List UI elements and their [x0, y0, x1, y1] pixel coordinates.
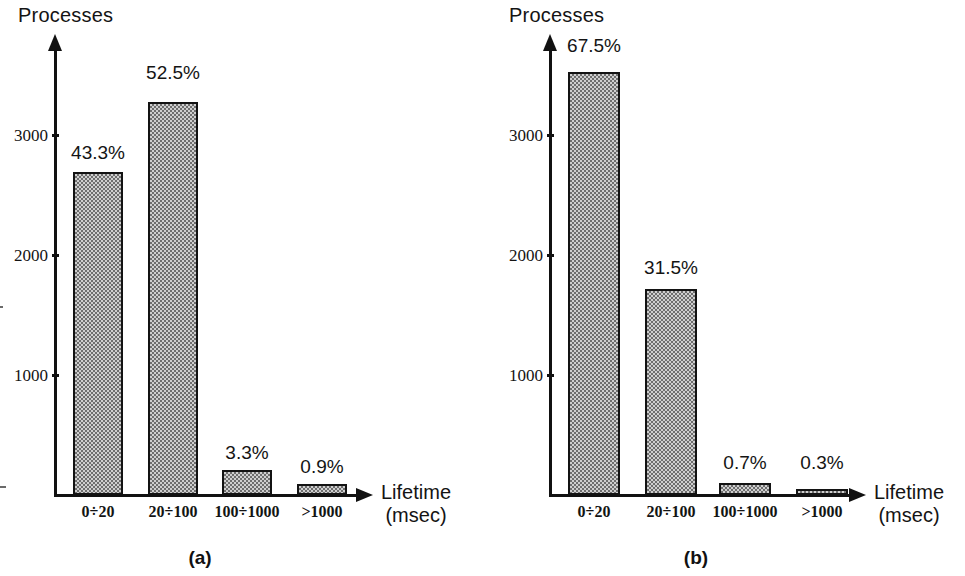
- x-category-label-100-1000: 100÷1000: [698, 503, 792, 520]
- x-axis-unit-text: (msec): [381, 504, 451, 527]
- panel-caption-a: (a): [155, 548, 245, 568]
- bar-value-label-0-20: 43.3%: [43, 143, 153, 162]
- y-tick-label-2000: 2000: [2, 247, 48, 264]
- bar-value-label-20-100: 31.5%: [616, 258, 726, 277]
- y-tick-mark-2000: [547, 254, 554, 257]
- bar-value-label-0-20: 67.5%: [539, 36, 649, 55]
- y-tick-label-1000: 1000: [2, 367, 48, 384]
- bar-100-1000: [719, 483, 771, 495]
- x-axis-arrow-icon: [356, 488, 373, 502]
- bar-over-1000: [297, 484, 347, 495]
- y-axis-line: [54, 50, 57, 497]
- bar-over-1000: [796, 489, 848, 495]
- panel-caption-b: (b): [651, 548, 741, 568]
- bar-value-label-over-1000: 0.9%: [267, 457, 377, 476]
- chart-panel-a: Processes 3000 2000 1000 43.3% 52.5% 3.3…: [0, 0, 482, 576]
- x-axis-title-text: Lifetime: [874, 481, 944, 503]
- bar-value-label-over-1000: 0.3%: [767, 453, 877, 472]
- y-axis-line: [549, 50, 552, 497]
- bar-value-label-20-100: 52.5%: [118, 63, 228, 82]
- bar-100-1000: [222, 470, 272, 495]
- bar-20-100: [148, 102, 198, 495]
- y-tick-mark-1000: [52, 374, 59, 377]
- y-tick-mark-1000: [547, 374, 554, 377]
- x-category-label-0-20: 0÷20: [554, 503, 634, 520]
- chart-panel-b: Processes 3000 2000 1000 67.5% 31.5% 0.7…: [483, 0, 965, 576]
- figure-two-bar-charts: Processes 3000 2000 1000 43.3% 52.5% 3.3…: [0, 0, 965, 576]
- y-tick-label-3000: 3000: [2, 127, 48, 144]
- x-category-label-over-1000: >1000: [784, 503, 860, 520]
- y-tick-label-3000: 3000: [497, 127, 543, 144]
- y-tick-label-2000: 2000: [497, 247, 543, 264]
- x-category-label-0-20: 0÷20: [58, 503, 138, 520]
- x-axis-title: Lifetime (msec): [874, 481, 944, 527]
- y-tick-label-1000: 1000: [497, 367, 543, 384]
- x-axis-arrow-icon: [849, 488, 866, 502]
- y-axis-title: Processes: [509, 4, 604, 26]
- x-axis-title: Lifetime (msec): [381, 481, 451, 527]
- y-axis-title: Processes: [18, 4, 113, 26]
- x-category-label-over-1000: >1000: [284, 503, 360, 520]
- x-axis-title-text: Lifetime: [381, 481, 451, 503]
- y-axis-arrow-icon: [48, 34, 62, 51]
- y-tick-mark-2000: [52, 254, 59, 257]
- bar-0-20: [568, 72, 620, 495]
- x-axis-unit-text: (msec): [874, 504, 944, 527]
- y-tick-mark-3000: [547, 134, 554, 137]
- y-tick-mark-3000: [52, 134, 59, 137]
- x-category-label-100-1000: 100÷1000: [200, 503, 294, 520]
- bar-0-20: [73, 172, 123, 495]
